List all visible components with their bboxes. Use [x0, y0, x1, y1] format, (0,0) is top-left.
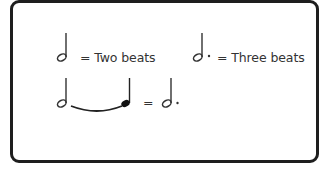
tied-notes-icon	[56, 78, 136, 112]
half-note-icon	[56, 33, 70, 63]
dotted-half-note-icon	[192, 33, 214, 63]
two-beats-label: = Two beats	[80, 50, 155, 65]
dotted-half-note-result-icon	[161, 78, 183, 110]
three-beats-label: = Three beats	[217, 50, 305, 65]
equals-sign: =	[143, 95, 153, 110]
